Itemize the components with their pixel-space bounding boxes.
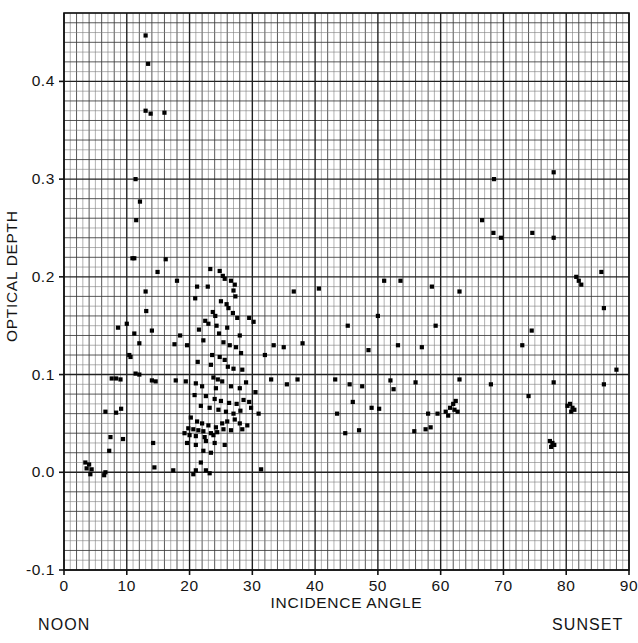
data-point [489,382,493,386]
data-point [614,368,618,372]
data-point [391,387,395,391]
data-point [335,412,339,416]
data-point [137,372,141,376]
data-point [376,314,380,318]
data-point [119,407,123,411]
data-point [249,406,253,410]
data-point [225,419,229,423]
data-point [224,302,228,306]
data-point [221,340,225,344]
data-point [396,343,400,347]
data-point [172,342,176,346]
data-point [257,412,261,416]
data-point [194,434,198,438]
data-point [137,341,141,345]
data-point [184,379,188,383]
data-point [210,353,214,357]
data-point [209,363,213,367]
data-point [192,393,196,397]
data-point [144,109,148,113]
data-point [213,441,217,445]
data-point [456,410,460,414]
data-point [526,394,530,398]
data-point [121,437,125,441]
data-point [491,231,495,235]
data-point [234,345,238,349]
data-point [241,398,245,402]
data-point [134,218,138,222]
data-point [195,419,199,423]
data-point [552,236,556,240]
data-point [444,410,448,414]
data-point [272,343,276,347]
x-tick-label: 80 [557,577,575,595]
data-point [85,466,89,470]
data-point [152,465,156,469]
data-point [412,429,416,433]
data-point [398,279,402,283]
data-point [346,324,350,328]
data-point [204,468,208,472]
data-point [348,382,352,386]
data-point [146,62,150,66]
data-point [370,406,374,410]
data-point [125,322,129,326]
x-tick-label: 30 [243,577,261,595]
data-point [162,111,166,115]
data-point [215,430,219,434]
data-point [602,306,606,310]
data-point [220,421,224,425]
x-tick-label: 20 [180,577,198,595]
data-point [448,406,452,410]
data-point [225,326,229,330]
data-point [223,358,227,362]
data-point [228,343,232,347]
data-point [259,467,263,471]
data-point [83,460,87,464]
data-point [114,376,118,380]
x-tick-label: 90 [620,577,638,595]
data-point [300,341,304,345]
data-point [201,338,205,342]
data-point [214,386,218,390]
x-tick-label: 60 [431,577,449,595]
data-point [144,309,148,313]
data-point [282,345,286,349]
data-point [203,435,207,439]
data-point [229,279,233,283]
data-point [221,427,225,431]
y-tick-label: 0.3 [32,170,55,188]
data-point [377,407,381,411]
y-tick-label: 0.2 [32,268,55,286]
data-point [492,177,496,181]
annotation-sunset-text: SUNSET [552,616,624,633]
data-point [253,390,257,394]
data-point [602,382,606,386]
data-point [155,270,159,274]
x-tick-label: 0 [59,577,68,595]
data-point [87,462,91,466]
data-point [457,377,461,381]
data-point [292,289,296,293]
x-tick-label: 50 [369,577,387,595]
data-point [226,306,230,310]
y-tick-label: 0.4 [32,72,55,90]
data-point [251,320,255,324]
data-point [238,409,242,413]
data-point [217,331,221,335]
data-point [102,473,106,477]
data-point [208,267,212,271]
x-tick-label: 70 [494,577,512,595]
data-point [195,285,199,289]
data-point [572,408,576,412]
data-point [185,441,189,445]
data-point [239,351,243,355]
data-point [164,257,168,261]
data-point [103,410,107,414]
data-point [213,397,217,401]
data-point [220,379,224,383]
data-point [108,435,112,439]
data-point [295,377,299,381]
data-point [229,428,233,432]
